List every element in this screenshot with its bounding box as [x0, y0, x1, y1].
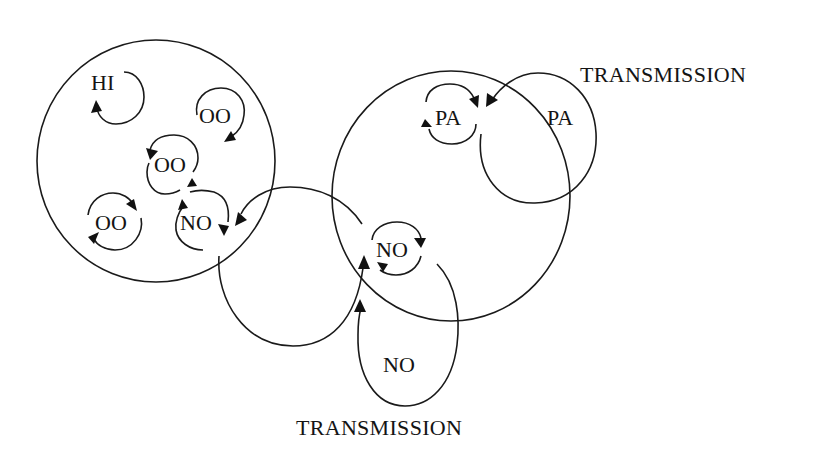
arrowhead-icon: [377, 262, 388, 272]
arrowhead-icon: [354, 299, 366, 312]
node-label-no-external: NO: [383, 352, 415, 377]
arrowhead-icon: [126, 199, 137, 211]
node-label-oo-center: OO: [154, 152, 186, 177]
arrowhead-icon: [414, 238, 426, 248]
arrowhead-icon: [421, 119, 432, 127]
pa-transmission-loop: [480, 73, 596, 203]
arrowhead-icon: [235, 212, 247, 226]
arrowhead-icon: [178, 199, 188, 210]
arrowhead-icon: [358, 255, 370, 269]
node-label-hi: HI: [91, 70, 114, 95]
no-transmission-loop-lower: [354, 264, 458, 406]
node-label-pa-inner: PA: [435, 105, 461, 130]
transmission-diagram: HI OO OO OO NO PA NO PA NO TRANSMISSION …: [0, 0, 826, 458]
node-label-oo-top-right: OO: [199, 103, 231, 128]
arrowhead-icon: [91, 100, 102, 113]
arrowhead-icon: [187, 178, 197, 187]
transmission-label-bottom: TRANSMISSION: [296, 415, 462, 440]
node-label-oo-bottom-left: OO: [95, 210, 127, 235]
transmission-label-top: TRANSMISSION: [580, 62, 746, 87]
arrowhead-icon: [218, 224, 229, 236]
node-label-pa-external: PA: [547, 105, 573, 130]
node-label-no-left: NO: [180, 210, 212, 235]
arrowhead-icon: [224, 131, 236, 142]
no-transmission-loop-middle: [219, 187, 370, 346]
node-label-no-inner: NO: [376, 237, 408, 262]
